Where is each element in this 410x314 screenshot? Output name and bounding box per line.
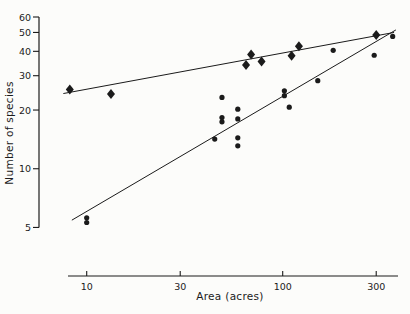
data-point-circle xyxy=(390,34,395,39)
data-point-circle xyxy=(282,93,287,98)
data-point-circle xyxy=(331,48,336,53)
data-point-circle xyxy=(282,88,287,93)
axes xyxy=(39,17,398,276)
data-point-circle xyxy=(212,136,217,141)
species-area-figure: 60504030201051030100300 Area (acres) Num… xyxy=(0,0,410,314)
data-point-circle xyxy=(315,78,320,83)
data-point-diamond xyxy=(107,89,115,99)
data-point-circle xyxy=(372,53,377,58)
y-tick-label: 20 xyxy=(19,105,31,116)
x-axis-label: Area (acres) xyxy=(196,290,264,302)
y-tick-label: 50 xyxy=(19,27,31,38)
y-axis-label: Number of species xyxy=(3,81,15,184)
species-area-scatter-chart: 60504030201051030100300 Area (acres) Num… xyxy=(0,0,410,314)
data-point-diamond xyxy=(372,30,380,40)
data-point-diamond xyxy=(242,60,250,70)
y-tick-label: 60 xyxy=(19,12,31,23)
trend-line-diamond-series xyxy=(63,32,394,93)
y-tick-label: 5 xyxy=(25,222,31,233)
data-point-circle xyxy=(84,215,89,220)
x-tick-label: 30 xyxy=(174,281,186,292)
axis-tick-labels: 60504030201051030100300 xyxy=(19,12,385,293)
y-tick-label: 10 xyxy=(19,163,31,174)
data-point-circle xyxy=(235,135,240,140)
x-tick-label: 100 xyxy=(274,281,292,292)
data-point-circle xyxy=(235,116,240,121)
y-tick-label: 30 xyxy=(19,70,31,81)
trend-line-circle-series xyxy=(72,30,396,220)
x-tick-label: 10 xyxy=(81,281,93,292)
data-point-circle xyxy=(84,220,89,225)
axis-ticks xyxy=(33,17,376,276)
x-tick-label: 300 xyxy=(367,281,385,292)
data-point-circle xyxy=(219,95,224,100)
data-point-circle xyxy=(219,119,224,124)
data-series xyxy=(63,30,396,225)
data-point-circle xyxy=(235,143,240,148)
data-point-circle xyxy=(287,105,292,110)
data-point-circle xyxy=(235,107,240,112)
y-tick-label: 40 xyxy=(19,46,31,57)
